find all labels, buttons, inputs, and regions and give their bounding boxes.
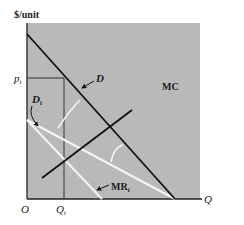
x-axis-label: Q: [204, 193, 212, 205]
y-axis-label: $/unit: [14, 9, 40, 20]
diagram: $/unit pt D MC Dt MRt O Qt Q: [0, 0, 244, 225]
curve-mc-label: MC: [162, 81, 179, 92]
plot-area: [27, 23, 200, 199]
price-label: pt: [13, 72, 23, 86]
quantity-label: Qt: [56, 203, 67, 217]
curve-d-label: D: [95, 72, 104, 84]
origin-label: O: [21, 203, 29, 215]
